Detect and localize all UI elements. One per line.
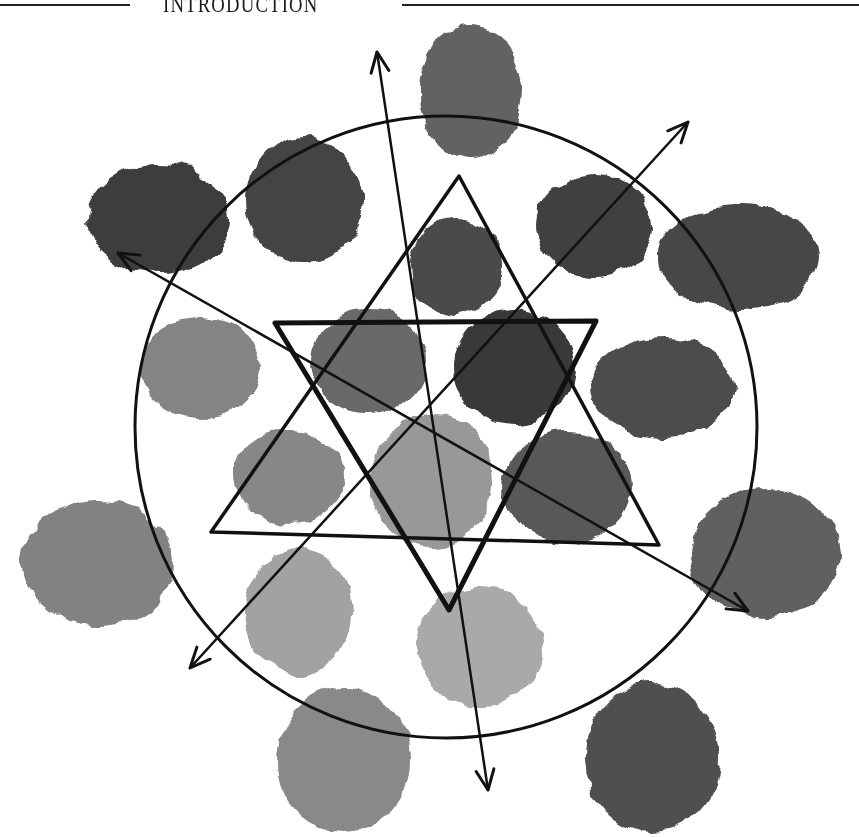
swatch-far-left	[22, 501, 174, 625]
swatch-top-left-outer	[86, 164, 230, 274]
swatch-top-right-outer	[658, 205, 822, 309]
swatch-lower-right	[504, 431, 632, 543]
swatch-bottom-center	[417, 586, 543, 706]
swatch-top	[418, 26, 522, 158]
swatch-bottom-left-outer	[277, 688, 411, 832]
swatch-bottom-left-inner	[244, 550, 352, 674]
color-wheel-diagram	[0, 0, 859, 837]
swatch-right	[590, 338, 736, 438]
swatch-bottom-right	[584, 684, 720, 832]
swatch-far-right	[691, 489, 841, 619]
paint-swatches	[22, 26, 841, 832]
swatch-left	[140, 318, 260, 420]
swatch-lower-center	[370, 416, 494, 548]
swatch-center-right	[453, 310, 575, 424]
swatch-top-left-inner	[247, 137, 363, 263]
